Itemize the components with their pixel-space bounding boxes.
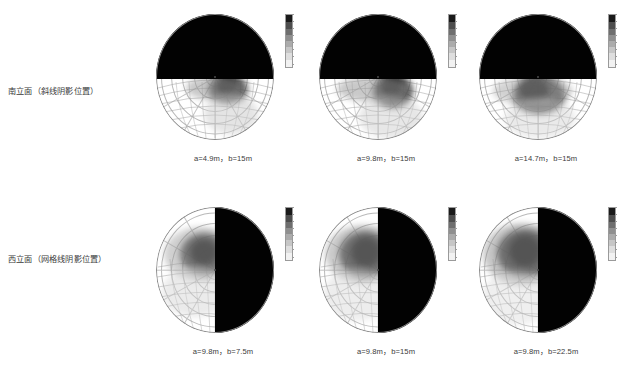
row-label-south-facade: 南立面（斜线阴影位置） [8, 87, 138, 98]
shadow-mask-right [378, 207, 437, 333]
row-label-west-facade: 西立面（网格线阴影位置） [8, 255, 138, 266]
figure-canvas: 南立面（斜线阴影位置） [0, 0, 629, 385]
shadow-mask-right [215, 207, 274, 333]
panel-caption: a=9.8m，b=7.5m [148, 345, 298, 356]
shade-blob-lower [505, 98, 575, 138]
colorbar-ticks [292, 14, 299, 66]
panel-caption: a=9.8m，b=22.5m [471, 345, 621, 356]
panel-west-a9p8-b22p5: a=9.8m，b=22.5m [471, 199, 621, 379]
stereographic-diagram [477, 10, 597, 145]
sunpath-disc [319, 14, 437, 140]
panel-caption: a=9.8m，b=15m [311, 345, 461, 356]
panel-caption: a=4.9m，b=15m [148, 152, 298, 163]
sunpath-disc [319, 207, 437, 333]
panel-west-a9p8-b7p5: a=9.8m，b=7.5m [148, 199, 298, 379]
colorbar-ticks [615, 207, 622, 259]
shadow-mask-upper [319, 14, 437, 79]
sunpath-disc [156, 207, 274, 333]
panel-caption: a=14.7m，b=15m [471, 152, 621, 163]
stereographic-diagram [317, 203, 437, 338]
stereographic-diagram [154, 203, 274, 338]
colorbar-ticks [292, 207, 299, 259]
sunpath-disc [479, 14, 597, 140]
shadow-mask-right [538, 207, 597, 333]
shadow-mask-upper [479, 14, 597, 79]
colorbar-ticks [615, 14, 622, 66]
panel-south-a4p9-b15: a=4.9m，b=15m [148, 6, 298, 186]
figure-row-west-facade: 西立面（网格线阴影位置） [0, 193, 629, 385]
panel-caption: a=9.8m，b=15m [311, 152, 461, 163]
shade-blob-lower [204, 94, 258, 134]
panel-west-a9p8-b15: a=9.8m，b=15m [311, 199, 461, 379]
stereographic-diagram [477, 203, 597, 338]
colorbar-ticks [455, 207, 462, 259]
shade-blob-lower [359, 96, 423, 138]
stereographic-diagram [317, 10, 437, 145]
figure-row-south-facade: 南立面（斜线阴影位置） [0, 0, 629, 192]
sunpath-disc [479, 207, 597, 333]
shadow-mask-upper [156, 14, 274, 79]
panel-south-a14p7-b15: a=14.7m，b=15m [471, 6, 621, 186]
colorbar-ticks [455, 14, 462, 66]
panel-south-a9p8-b15: a=9.8m，b=15m [311, 6, 461, 186]
sunpath-disc [156, 14, 274, 140]
stereographic-diagram [154, 10, 274, 145]
